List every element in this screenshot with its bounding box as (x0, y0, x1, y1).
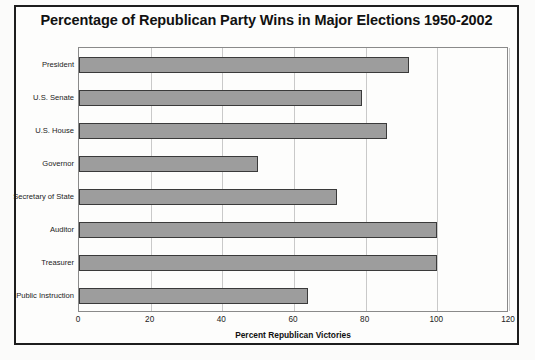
y-tick-label-public-instruction: Public Instruction (0, 291, 74, 300)
bar (79, 90, 362, 106)
gridline (509, 48, 510, 311)
chart-title: Percentage of Republican Party Wins in M… (14, 12, 519, 28)
bar (79, 57, 409, 73)
x-tick-label-40: 40 (217, 315, 226, 324)
bar-row (79, 147, 507, 180)
x-tick-label-120: 120 (501, 315, 515, 324)
bar (79, 123, 387, 139)
x-tick-label-60: 60 (288, 315, 297, 324)
x-tick-label-0: 0 (76, 315, 81, 324)
bar-row (79, 81, 507, 114)
bar (79, 255, 437, 271)
y-tick-label-u-s-senate: U.S. Senate (0, 92, 74, 101)
plot-area (78, 47, 508, 312)
y-axis-tick-labels: PresidentU.S. SenateU.S. HouseGovernorSe… (0, 47, 74, 312)
bar-row (79, 214, 507, 247)
bar-series (79, 48, 507, 311)
y-tick-label-treasurer: Treasurer (0, 258, 74, 267)
x-axis-tick-labels: 020406080100120 (78, 315, 508, 329)
y-tick-label-secretary-of-state: Secretary of State (0, 192, 74, 201)
bar-row (79, 48, 507, 81)
x-tick-label-80: 80 (360, 315, 369, 324)
bar (79, 189, 337, 205)
x-axis-title: Percent Republican Victories (78, 330, 508, 340)
x-tick-label-20: 20 (145, 315, 154, 324)
y-tick-label-auditor: Auditor (0, 225, 74, 234)
chart-figure: Percentage of Republican Party Wins in M… (0, 0, 535, 360)
bar-row (79, 114, 507, 147)
bar (79, 156, 258, 172)
y-tick-label-u-s-house: U.S. House (0, 125, 74, 134)
x-tick-label-100: 100 (429, 315, 443, 324)
bar (79, 288, 308, 304)
bar-row (79, 181, 507, 214)
bar-row (79, 280, 507, 313)
bar (79, 222, 437, 238)
bar-row (79, 247, 507, 280)
y-tick-label-president: President (0, 59, 74, 68)
y-tick-label-governor: Governor (0, 158, 74, 167)
